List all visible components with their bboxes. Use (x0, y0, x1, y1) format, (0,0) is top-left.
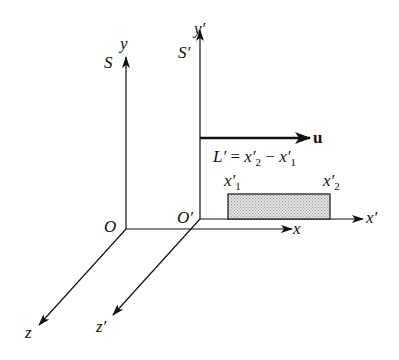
frame-s-label: S (104, 53, 113, 72)
origin-o-prime-label: O′ (177, 208, 193, 227)
y-axis-label: y (118, 34, 128, 53)
z-prime-axis-label: z′ (95, 317, 107, 336)
z-axis (39, 229, 126, 325)
relativity-frames-diagram: S y x z O S′ y′ x′ z′ O′ u L′ = x′2 − x′… (0, 0, 399, 360)
length-equation: L′ = x′2 − x′1 (212, 147, 296, 168)
origin-o-label: O (104, 217, 116, 236)
z-prime-axis (113, 219, 200, 315)
y-prime-axis-label: y′ (192, 19, 206, 38)
x-axis-label: x (292, 219, 301, 238)
velocity-label: u (313, 128, 322, 147)
diagram-svg: S y x z O S′ y′ x′ z′ O′ u L′ = x′2 − x′… (0, 0, 399, 360)
z-axis-label: z (24, 323, 32, 342)
x-prime-axis-label: x′ (365, 208, 378, 227)
frame-s-prime-label: S′ (178, 43, 191, 62)
rod-left-end-label: x′1 (223, 171, 241, 192)
rod (228, 194, 330, 219)
frame-s-axes (39, 57, 292, 325)
rod-right-end-label: x′2 (322, 171, 340, 192)
